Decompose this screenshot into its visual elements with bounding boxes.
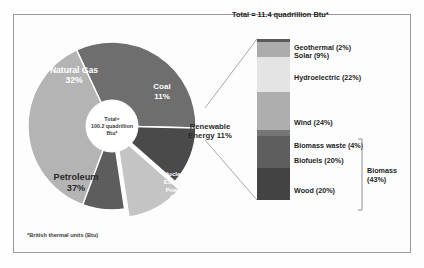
biomass-bracket-icon (222, 10, 412, 225)
bracket-label-line1: Biomass (367, 166, 397, 175)
biomass-bracket-label: Biomass (43%) (367, 166, 397, 184)
renewable-breakdown-chart: Total = 11.4 quadrillion Btu* Geothermal… (222, 10, 412, 225)
bracket-label-line2: (43%) (367, 175, 397, 184)
figure-footnote: *British thermal units (Btu) (27, 232, 98, 238)
figure-canvas: Total= 100.2 quadrillion Btu* Natural Ga… (0, 0, 424, 268)
